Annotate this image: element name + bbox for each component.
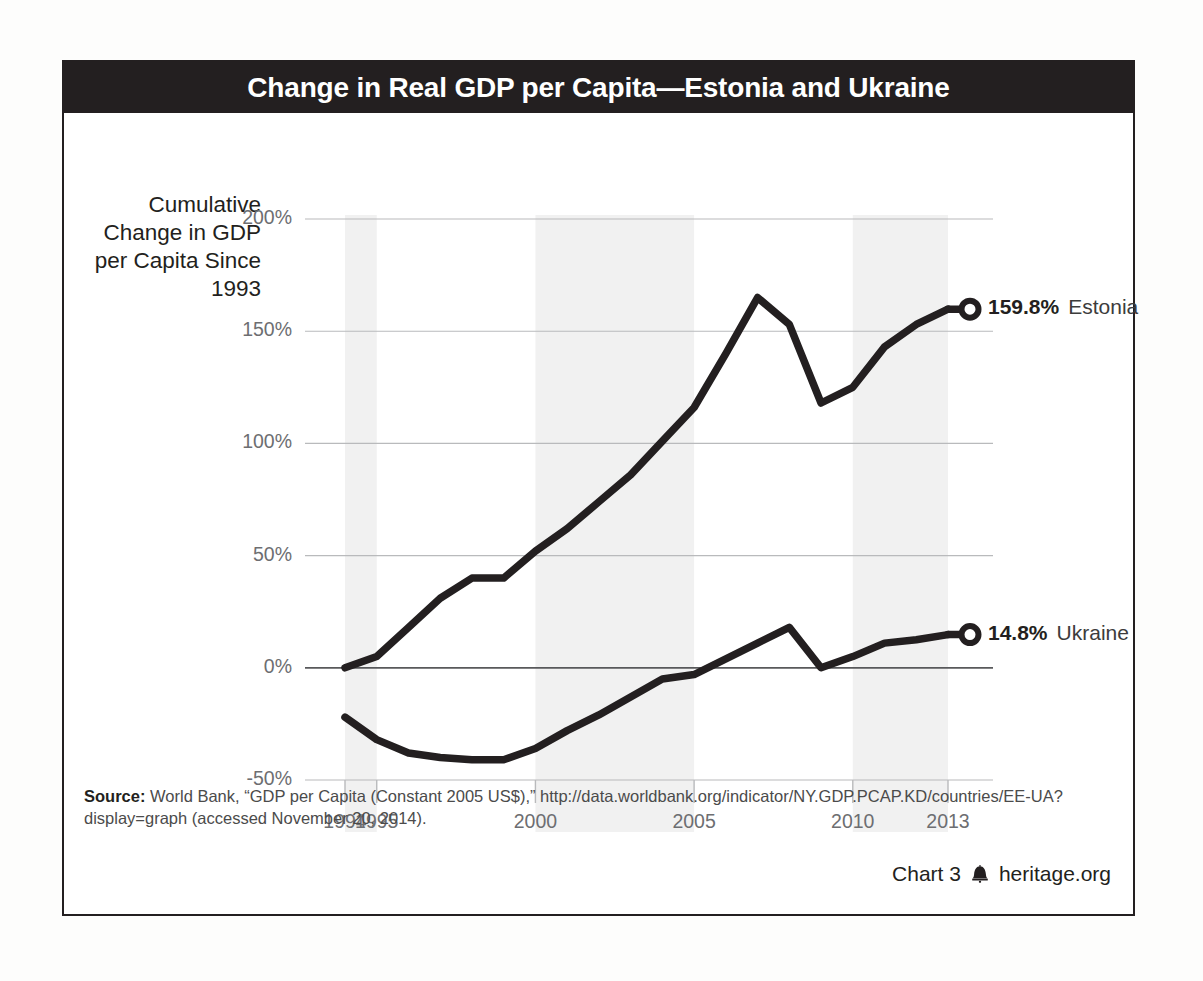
series-name-estonia: Estonia xyxy=(1068,295,1138,318)
series-end-marker-estonia xyxy=(962,301,979,318)
site-name: heritage.org xyxy=(999,862,1111,886)
series-value-ukraine: 14.8% xyxy=(988,621,1048,644)
series-label-estonia: 159.8%Estonia xyxy=(988,295,1138,319)
page-title: Change in Real GDP per Capita—Estonia an… xyxy=(247,72,949,104)
series-name-ukraine: Ukraine xyxy=(1057,621,1129,644)
chart-figure-frame: Change in Real GDP per Capita—Estonia an… xyxy=(62,60,1135,916)
chart-number: Chart 3 xyxy=(892,862,961,886)
y-tick-label-150: 150% xyxy=(202,318,292,341)
y-tick-label-0: 0% xyxy=(202,655,292,678)
y-tick-label-50: 50% xyxy=(202,543,292,566)
source-text: World Bank, “GDP per Capita (Constant 20… xyxy=(84,787,1063,827)
y-tick-label-200: 200% xyxy=(202,206,292,229)
series-end-marker-ukraine xyxy=(962,626,979,643)
series-value-estonia: 159.8% xyxy=(988,295,1059,318)
chart-title-bar: Change in Real GDP per Capita—Estonia an… xyxy=(64,62,1133,113)
series-label-ukraine: 14.8%Ukraine xyxy=(988,621,1129,645)
shaded-band-1 xyxy=(535,215,694,832)
shaded-band-2 xyxy=(853,215,948,832)
chart-footer: Chart 3 heritage.org xyxy=(892,862,1111,886)
source-note: Source: World Bank, “GDP per Capita (Con… xyxy=(84,785,1114,829)
source-label: Source: xyxy=(84,787,145,805)
y-tick-label-100: 100% xyxy=(202,430,292,453)
page-root: Change in Real GDP per Capita—Estonia an… xyxy=(0,0,1203,981)
liberty-bell-icon xyxy=(970,864,990,884)
